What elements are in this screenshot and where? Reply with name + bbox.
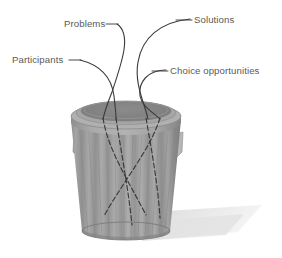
can-opening	[81, 101, 171, 121]
garbage-can-diagram: Problems Solutions Participants Choice o…	[0, 0, 282, 258]
label-choice-opportunities: Choice opportunities	[170, 65, 260, 76]
label-problems: Problems	[64, 18, 105, 29]
can-body-group	[71, 101, 183, 240]
diagram-canvas: Problems Solutions Participants Choice o…	[0, 0, 282, 258]
labels-group: Problems Solutions Participants Choice o…	[12, 14, 260, 76]
label-participants: Participants	[12, 54, 63, 65]
label-solutions: Solutions	[194, 14, 234, 25]
